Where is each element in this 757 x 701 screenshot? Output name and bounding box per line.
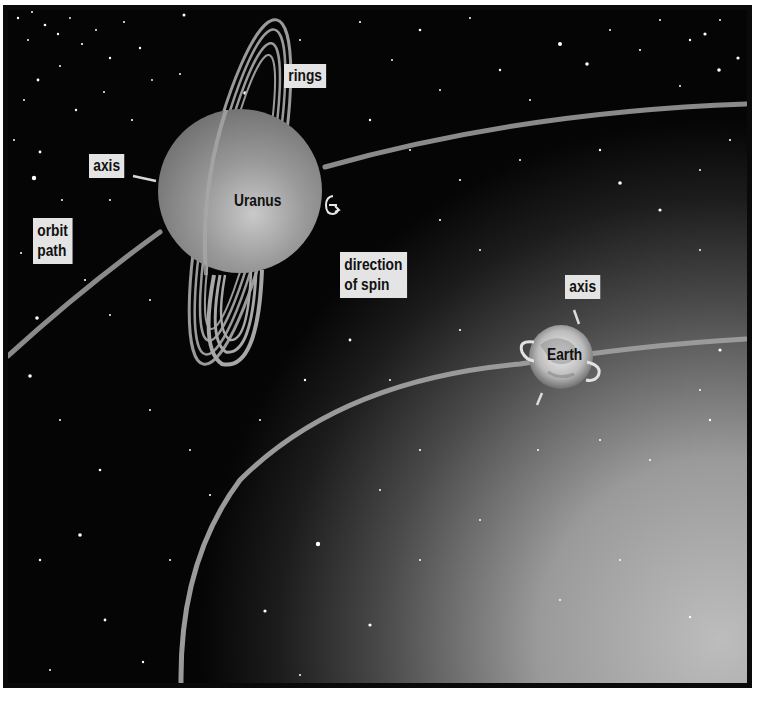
uranus-axis-label: axis (89, 154, 124, 178)
direction-of-spin-label: direction of spin (340, 252, 407, 298)
earth-axis-label: axis (565, 275, 600, 299)
space-illustration (3, 5, 752, 688)
uranus-planet (158, 109, 322, 273)
earth-label: Earth (547, 346, 582, 364)
direction-of-spin-label-line2: of spin (344, 275, 402, 295)
direction-of-spin-label-line1: direction (344, 255, 402, 275)
space-scene: rings axis orbit path Uranus direction o… (3, 5, 752, 688)
rings-label: rings (284, 64, 326, 88)
orbit-path-label-line2: path (37, 241, 68, 261)
uranus-label: Uranus (234, 192, 281, 210)
orbit-path-label-line1: orbit (37, 221, 68, 241)
orbit-path-label: orbit path (33, 218, 72, 264)
diagram-frame: rings axis orbit path Uranus direction o… (3, 5, 752, 688)
